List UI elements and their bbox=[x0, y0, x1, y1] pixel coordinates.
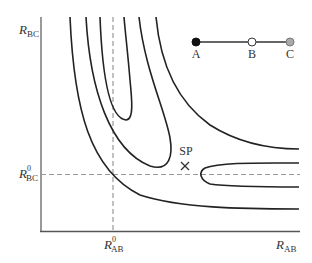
r-ab-0-label: R0AB bbox=[103, 235, 123, 254]
saddle-point-label: SP bbox=[179, 144, 193, 158]
contour-upper-right bbox=[156, 17, 299, 149]
x-axis-label: RAB bbox=[275, 237, 296, 254]
contour-middle-u bbox=[86, 17, 171, 167]
atom-a-label: A bbox=[192, 47, 201, 61]
molecule-abc: A B C bbox=[192, 38, 294, 61]
contour-diagram: SP A B C RBC RAB R0BC R0AB bbox=[0, 0, 312, 263]
saddle-point-marker bbox=[181, 162, 189, 170]
contour-inner-u bbox=[100, 17, 132, 120]
atom-b-label: B bbox=[248, 47, 256, 61]
r-bc-0-label: R0BC bbox=[18, 164, 38, 183]
atom-a bbox=[192, 38, 200, 46]
contour-lines bbox=[70, 17, 299, 209]
atom-c-label: C bbox=[286, 47, 294, 61]
y-axis-label: RBC bbox=[18, 22, 39, 39]
atom-c bbox=[286, 38, 294, 46]
atom-b bbox=[248, 38, 256, 46]
